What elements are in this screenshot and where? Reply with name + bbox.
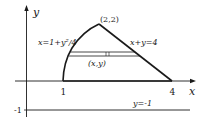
x-tick-label-4: 4 (170, 87, 176, 97)
x-axis-arrow-icon (190, 79, 196, 83)
y-axis-arrow-icon (24, 5, 28, 11)
region-diagram: y x 1 4 -1 (2,2) x=1+y²/4 x+y=4 (x,y) y=… (0, 0, 208, 123)
x-tick-label-1: 1 (61, 87, 67, 97)
y-axis-label: y (32, 6, 40, 19)
y-tick-label-minus-1: -1 (14, 106, 22, 115)
lower-line-label: y=-1 (132, 99, 152, 108)
strip-point-label: (x,y) (88, 59, 106, 68)
x-axis-label: x (189, 85, 196, 98)
line-right-boundary (99, 24, 172, 81)
apex-label: (2,2) (100, 15, 119, 24)
left-curve-label: x=1+y²/4 (38, 38, 77, 47)
right-line-label: x+y=4 (130, 38, 158, 47)
curve-left-boundary (63, 24, 99, 81)
